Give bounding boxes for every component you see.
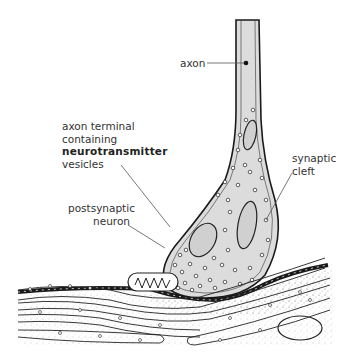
label-synaptic-cleft: synaptic cleft [292, 152, 336, 177]
label-axon-terminal: axon terminal containing neurotransmitte… [62, 120, 168, 170]
label-axon-terminal-line2: containing [62, 133, 168, 146]
label-postsynaptic-line2: neuron [68, 215, 130, 228]
label-synaptic-cleft-line2: cleft [292, 165, 336, 178]
label-axon: axon [180, 57, 205, 70]
label-axon-terminal-line1: axon terminal [62, 120, 168, 133]
label-axon-text: axon [180, 57, 205, 69]
mitochondrion [128, 273, 178, 291]
axon-marker-dot [244, 61, 249, 66]
label-synaptic-cleft-line1: synaptic [292, 152, 336, 165]
label-neurotransmitter: neurotransmitter [62, 145, 168, 157]
synapse-diagram [0, 0, 346, 364]
label-postsynaptic-neuron: postsynaptic neuron [68, 202, 130, 227]
label-postsynaptic-line1: postsynaptic [68, 202, 130, 215]
label-axon-terminal-line4: vesicles [62, 158, 168, 171]
